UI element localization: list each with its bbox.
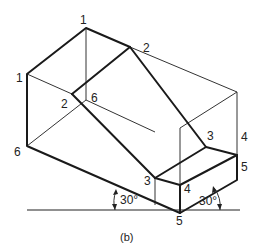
label-step-top-right: 3: [207, 129, 214, 143]
right-angle-label: 30°: [199, 194, 217, 208]
label-bottom-front: 5: [176, 214, 183, 228]
left-angle-indicator: [112, 189, 118, 210]
label-bottom-right: 5: [241, 160, 248, 174]
isometric-drawing: 1 1 2 2 6 6 3 3 4 4 5 5 30° 30° (b): [0, 0, 260, 252]
label-step-top-left: 3: [144, 174, 151, 188]
label-back-bottom: 6: [91, 91, 98, 105]
label-back-top: 1: [80, 13, 87, 27]
object-outline: [27, 28, 237, 213]
label-step-right-upper: 4: [241, 130, 248, 144]
label-step-front: 4: [184, 182, 191, 196]
figure-caption: (b): [120, 231, 133, 243]
label-top-right-slope: 2: [143, 41, 150, 55]
label-front-bottom-left: 6: [14, 145, 21, 159]
construction-lines: [27, 28, 237, 205]
label-inner-slope-left: 2: [61, 97, 68, 111]
label-front-top-left: 1: [16, 71, 23, 85]
left-angle-label: 30°: [120, 193, 138, 207]
